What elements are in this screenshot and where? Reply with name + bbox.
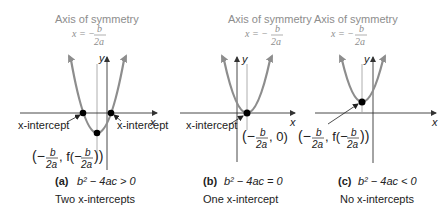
svg-text:2a: 2a <box>94 36 104 47</box>
discriminant-diagram: Axis of symmetry x = − b 2a x y x-interc… <box>0 0 447 218</box>
x-intercept-label-left: x-intercept <box>18 119 69 131</box>
svg-text:, f(−: , f(− <box>325 129 348 144</box>
vertex-coordinate: (− b 2a , 0) <box>242 127 288 150</box>
svg-text:b: b <box>260 127 266 138</box>
caption-equation: b² − 4ac < 0 <box>358 175 418 187</box>
caption-subtitle: Two x-intercepts <box>55 193 136 205</box>
axis-of-symmetry-title: Axis of symmetry <box>314 13 398 25</box>
svg-text:b: b <box>359 23 364 34</box>
x-intercept-label-right: x-intercept <box>117 119 168 131</box>
svg-text:2a: 2a <box>45 159 58 170</box>
caption-label: (b) <box>203 175 217 187</box>
svg-text:2a: 2a <box>355 36 365 47</box>
x-intercept-right-point <box>108 110 115 117</box>
caption-equation: b² − 4ac > 0 <box>77 175 137 187</box>
svg-text:(−: (− <box>242 128 255 144</box>
svg-text:, 0): , 0) <box>269 129 288 144</box>
panel-a: Axis of symmetry x = − b 2a x y x-interc… <box>18 13 168 205</box>
panel-b: Axis of symmetry x = − b 2a x y x-interc… <box>180 13 312 205</box>
svg-text:2a: 2a <box>271 36 281 47</box>
caption-label: (c) <box>338 175 352 187</box>
caption-subtitle: One x-intercept <box>203 193 278 205</box>
svg-text:)): )) <box>94 148 103 164</box>
svg-text:x: x <box>431 116 438 128</box>
parabola <box>342 60 383 102</box>
axis-of-symmetry-title: Axis of symmetry <box>228 13 312 25</box>
svg-text:y: y <box>363 53 371 65</box>
vertex-coordinate: (− b 2a , f(− b 2a )) <box>298 127 369 150</box>
caption-subtitle: No x-intercepts <box>340 193 414 205</box>
svg-text:y: y <box>98 52 106 64</box>
caption-label: (a) <box>55 175 69 187</box>
svg-text:2a: 2a <box>255 139 268 150</box>
axis-of-symmetry-eq: x = − <box>330 28 354 39</box>
svg-text:(−: (− <box>298 128 311 144</box>
vertex-x-intercept-point <box>244 110 251 117</box>
svg-text:b: b <box>97 23 102 34</box>
svg-text:y: y <box>241 53 249 65</box>
svg-text:2a: 2a <box>346 139 359 150</box>
x-intercept-label: x-intercept <box>186 119 237 131</box>
svg-text:b: b <box>275 23 280 34</box>
svg-text:b: b <box>85 147 91 158</box>
vertex-point <box>94 130 101 137</box>
svg-text:2a: 2a <box>80 159 93 170</box>
caption-equation: b² − 4ac = 0 <box>224 175 284 187</box>
svg-text:2a: 2a <box>311 139 324 150</box>
axis-of-symmetry-eq: x = − <box>71 28 95 39</box>
axis-of-symmetry-eq: x = − <box>244 28 268 39</box>
panel-c: Axis of symmetry x = − b 2a x y (− b 2a … <box>298 13 438 205</box>
vertex-coordinate: (− b 2a , f(− b 2a )) <box>32 147 103 170</box>
vertex-point <box>359 99 366 106</box>
svg-text:, f(−: , f(− <box>59 149 82 164</box>
svg-text:b: b <box>50 147 56 158</box>
svg-text:x: x <box>289 116 296 128</box>
x-intercept-left-point <box>80 110 87 117</box>
svg-text:b: b <box>351 127 357 138</box>
svg-text:b: b <box>316 127 322 138</box>
svg-text:)): )) <box>360 128 369 144</box>
svg-text:(−: (− <box>32 148 45 164</box>
